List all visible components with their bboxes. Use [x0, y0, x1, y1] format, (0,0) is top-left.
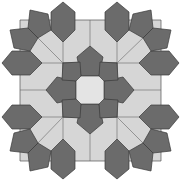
center-octagon: [76, 76, 104, 104]
tessellation-canvas: [0, 0, 181, 181]
